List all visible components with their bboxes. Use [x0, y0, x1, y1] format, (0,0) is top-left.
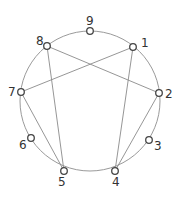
edge-8-5 — [47, 46, 64, 171]
node-label-4: 4 — [112, 175, 120, 189]
node-9 — [87, 28, 94, 35]
node-1 — [130, 44, 137, 51]
node-6 — [28, 135, 35, 142]
node-5 — [61, 168, 68, 175]
node-4 — [112, 168, 119, 175]
enneagram-diagram: 123456789 — [0, 0, 180, 201]
node-label-1: 1 — [141, 36, 149, 50]
node-label-8: 8 — [36, 34, 44, 48]
node-7 — [18, 89, 25, 96]
node-label-5: 5 — [58, 175, 66, 189]
nodes: 123456789 — [8, 14, 173, 189]
edge-1-4 — [115, 47, 133, 171]
node-label-7: 7 — [8, 85, 16, 99]
node-8 — [44, 43, 51, 50]
node-3 — [146, 137, 153, 144]
node-label-2: 2 — [165, 87, 173, 101]
edge-8-2 — [47, 46, 159, 93]
node-label-6: 6 — [19, 138, 27, 152]
node-2 — [156, 90, 163, 97]
node-label-3: 3 — [154, 139, 162, 153]
node-label-9: 9 — [86, 14, 94, 28]
enneagram-circle — [20, 31, 160, 171]
